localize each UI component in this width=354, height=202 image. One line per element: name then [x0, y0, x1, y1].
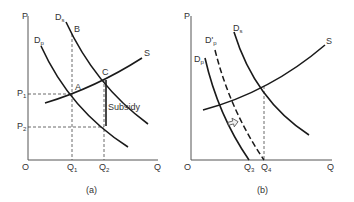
caption-a: (a)	[86, 186, 97, 195]
demand-private-label-b: Dp	[194, 55, 204, 65]
x-axis-label-b: Q	[327, 163, 334, 172]
demand-social-label-a: Ds	[55, 13, 65, 23]
point-b-label: B	[74, 25, 80, 34]
y-axis-label-a: P	[22, 12, 28, 21]
origin-label-b: O	[184, 163, 191, 172]
p2-label: P2	[17, 122, 26, 132]
point-a-label: A	[75, 83, 81, 92]
point-c-label: C	[102, 68, 109, 77]
origin-label-a: O	[22, 163, 29, 172]
demand-social-label-b: Ds	[233, 24, 243, 34]
p1-label: P1	[17, 89, 26, 99]
y-axis-label-b: P	[184, 12, 190, 21]
q2-label: Q2	[99, 163, 109, 173]
q3-label: Q3	[244, 163, 254, 173]
supply-curve-b	[203, 45, 325, 110]
panel-a	[28, 16, 158, 160]
demand-social-curve-b	[234, 32, 309, 135]
q1-label: Q1	[67, 163, 77, 173]
demand-private-label-a: Dp	[34, 36, 44, 46]
demand-private-curve-a	[41, 46, 128, 147]
demand-private-shifted-label-b: D'p	[205, 36, 217, 46]
subsidy-label: Subsidy	[108, 103, 140, 112]
supply-label-b: S	[326, 37, 332, 46]
q4-label: Q4	[261, 163, 271, 173]
externality-subsidy-diagram	[0, 0, 354, 202]
caption-b: (b)	[257, 186, 268, 195]
demand-private-shifted-curve-b	[215, 50, 264, 160]
x-axis-label-a: Q	[154, 163, 161, 172]
supply-label-a: S	[144, 49, 150, 58]
demand-private-curve-b	[205, 58, 249, 160]
